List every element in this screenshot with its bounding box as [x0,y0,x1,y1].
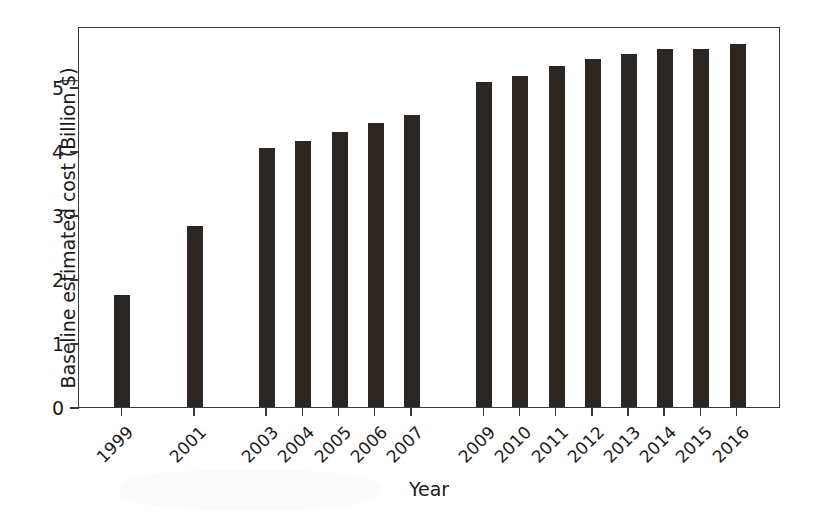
x-tick-mark [410,408,412,416]
x-tick-mark [663,408,665,416]
bar [114,295,130,407]
bar [404,115,420,407]
y-tick-label: 2 [30,269,64,291]
x-tick-mark [627,408,629,416]
bar [657,49,673,407]
chart-figure: Baseline estimated cost (Billion $) Year… [0,0,821,515]
x-tick-mark [519,408,521,416]
x-tick-mark [302,408,304,416]
x-tick-mark [193,408,195,416]
y-tick-label: 3 [30,205,64,227]
x-tick-label: 2007 [379,422,427,470]
y-tick-label: 4 [30,141,64,163]
x-tick-mark [591,408,593,416]
bar [259,148,275,407]
x-tick-label: 2014 [632,422,680,470]
x-tick-label: 2003 [234,422,282,470]
bar [549,66,565,407]
y-tick-label: 1 [30,333,64,355]
bar [332,132,348,407]
x-tick-label: 2001 [162,422,210,470]
bar [585,59,601,407]
x-axis-title: Year [78,478,780,500]
x-tick-label: 2010 [488,422,536,470]
plot-area [78,27,780,408]
x-tick-label: 2009 [451,422,499,470]
x-tick-mark [700,408,702,416]
bar [621,54,637,407]
x-tick-mark [736,408,738,416]
x-tick-mark [483,408,485,416]
bar-series [79,28,779,407]
x-tick-label: 2016 [705,422,753,470]
bar [368,123,384,407]
bar [476,82,492,407]
x-tick-label: 2015 [668,422,716,470]
bar [295,141,311,407]
bar [693,49,709,407]
y-tick-label: 5 [30,77,64,99]
x-tick-mark [338,408,340,416]
x-tick-mark [555,408,557,416]
x-tick-label: 2013 [596,422,644,470]
x-tick-label: 2011 [524,422,572,470]
x-tick-label: 1999 [89,422,137,470]
bar [730,44,746,407]
x-tick-label: 2004 [270,422,318,470]
x-tick-mark [265,408,267,416]
x-tick-label: 2012 [560,422,608,470]
x-tick-mark [374,408,376,416]
x-tick-mark [121,408,123,416]
bar [512,76,528,407]
x-tick-label: 2005 [307,422,355,470]
y-tick-label: 0 [30,397,64,419]
bar [187,226,203,407]
x-tick-label: 2006 [343,422,391,470]
